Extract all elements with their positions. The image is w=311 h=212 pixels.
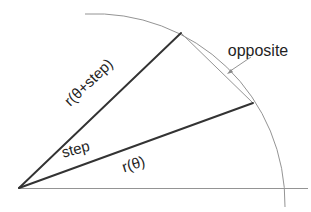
opposite-pointer-arrow bbox=[231, 57, 251, 71]
polar-step-diagram: opposite r(θ+step) step r(θ) bbox=[0, 0, 311, 212]
radius-theta-plus-step-line bbox=[19, 33, 181, 188]
label-opposite: opposite bbox=[228, 42, 289, 59]
label-r-theta-plus-step: r(θ+step) bbox=[61, 55, 116, 109]
diagram-canvas: opposite r(θ+step) step r(θ) bbox=[0, 0, 311, 212]
label-step: step bbox=[60, 137, 92, 161]
radius-theta-line bbox=[19, 103, 253, 188]
label-r-theta: r(θ) bbox=[120, 152, 147, 175]
